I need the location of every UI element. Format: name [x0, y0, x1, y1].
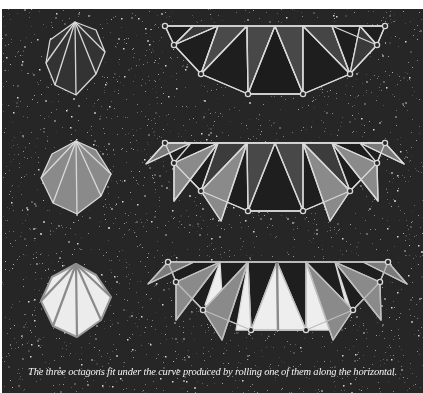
figure-caption: The three octagons fit under the curve p…: [2, 366, 423, 377]
rolling-curve-1: [162, 23, 387, 96]
octagon-light: [41, 264, 111, 337]
figure-canvas: The three octagons fit under the curve p…: [2, 9, 423, 393]
rolling-curve-3: [148, 259, 407, 340]
diagram: [2, 9, 423, 393]
octagon-gray: [41, 141, 111, 214]
rolling-curve-2: [146, 140, 404, 221]
octagon-dark: [46, 22, 105, 95]
